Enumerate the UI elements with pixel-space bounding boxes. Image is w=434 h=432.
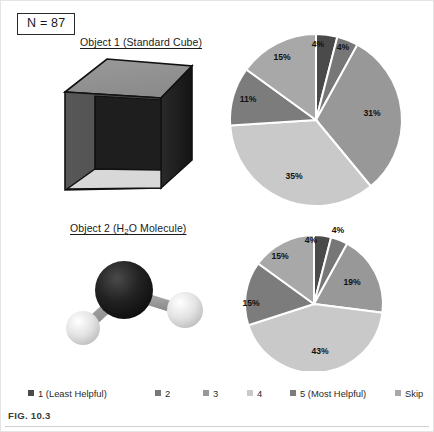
pie1-slice-label: 35% <box>285 171 303 181</box>
object-2-title-suffix: O Molecule) <box>129 222 187 234</box>
legend-swatch-icon <box>247 390 253 396</box>
legend-swatch-icon <box>28 390 34 396</box>
legend-item-label: 3 <box>213 388 218 399</box>
pie2-slice-label: 15% <box>242 298 260 308</box>
pie1-slice-label: 11% <box>240 94 257 104</box>
legend-swatch-icon <box>155 390 161 396</box>
water-molecule-icon <box>58 248 210 346</box>
legend-swatch-icon <box>395 390 401 396</box>
caption-divider <box>5 426 429 427</box>
pie2-slice-label: 4% <box>305 235 318 245</box>
legend-swatch-icon <box>203 390 209 396</box>
legend-item[interactable]: 4 <box>247 388 262 399</box>
pie2-slice-label: 15% <box>271 251 289 261</box>
pie-chart-object-2: 4%4%19%43%15%15% <box>228 226 404 371</box>
object-2-title-subscript: 2 <box>124 227 129 236</box>
pie1-slice-label: 4% <box>337 42 350 52</box>
legend-item-label: Skip <box>405 388 423 399</box>
cube-3d-icon <box>62 56 195 196</box>
legend-swatch-icon <box>290 390 296 396</box>
legend-item[interactable]: 3 <box>203 388 218 399</box>
legend: 1 (Least Helpful)2345 (Most Helpful)Skip <box>0 388 434 404</box>
legend-item[interactable]: 2 <box>155 388 170 399</box>
pie1-slice-label: 15% <box>273 52 291 62</box>
pie-chart-object-1: 4%4%31%35%11%15% <box>226 31 406 209</box>
pie2-slice-label: 4% <box>332 226 345 235</box>
legend-item[interactable]: Skip <box>395 388 423 399</box>
object-2-title-prefix: Object 2 (H <box>70 222 124 234</box>
pie2-slice-label: 43% <box>311 346 329 356</box>
pie1-slice-label: 31% <box>363 108 381 118</box>
legend-item-label: 2 <box>165 388 170 399</box>
pie2-slice-label: 19% <box>343 277 361 287</box>
legend-item-label: 1 (Least Helpful) <box>38 388 107 399</box>
legend-item-label: 4 <box>257 388 262 399</box>
sample-size-badge: N = 87 <box>17 13 75 35</box>
legend-item-label: 5 (Most Helpful) <box>300 388 366 399</box>
object-2-title: Object 2 (H2O Molecule) <box>70 222 186 234</box>
pie1-slice-label: 4% <box>312 39 325 49</box>
object-1-title: Object 1 (Standard Cube) <box>80 36 202 48</box>
legend-item[interactable]: 1 (Least Helpful) <box>28 388 107 399</box>
figure-caption: FIG. 10.3 <box>8 410 51 421</box>
legend-item[interactable]: 5 (Most Helpful) <box>290 388 366 399</box>
